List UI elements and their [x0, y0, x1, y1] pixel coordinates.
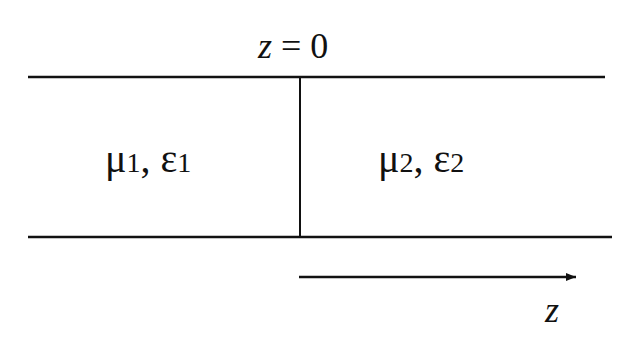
interface-diagram: z = 0 μ1, ε1 μ2, ε2 z — [0, 0, 633, 338]
interface-label: z = 0 — [257, 26, 328, 66]
region-left-label: μ1, ε1 — [105, 136, 191, 181]
region-right-label: μ2, ε2 — [378, 136, 464, 181]
z-axis-label: z — [544, 290, 559, 330]
